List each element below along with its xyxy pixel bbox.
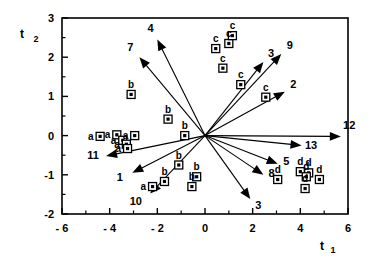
loading-vector-line [205, 136, 294, 145]
score-marker-label: d [303, 161, 309, 172]
x-tick-label: 4 [297, 222, 304, 234]
score-marker-label: b [128, 79, 134, 90]
score-marker-label: c [220, 53, 226, 64]
score-marker-label: d [275, 164, 281, 175]
y-tick-label: -1 [44, 169, 54, 181]
loading-vector-label: 2 [290, 78, 296, 90]
loading-vector-label: 12 [343, 119, 355, 131]
loading-vector-label: 10 [130, 195, 142, 207]
score-marker-center [195, 175, 198, 178]
loading-vector-label: 11 [87, 149, 99, 161]
loading-vector-arrowhead [266, 156, 278, 164]
score-marker-label: d [316, 164, 322, 175]
x-axis-tick-labels: - 6- 4- 20246 [56, 222, 351, 234]
y-axis-title-subscript: 2 [33, 34, 38, 44]
score-marker-center [276, 178, 279, 181]
loading-vector-arrowhead [273, 92, 285, 101]
score-marker-center [163, 180, 166, 183]
loading-vector-arrowhead [132, 164, 144, 173]
loading-vector-arrowhead [290, 140, 301, 149]
y-axis-tick-labels: -2-10123 [44, 12, 54, 220]
score-marker-center [99, 135, 102, 138]
loading-vector-line [205, 68, 258, 135]
score-marker-center [126, 147, 129, 150]
loading-vector-arrowhead [253, 62, 263, 73]
score-marker-center [221, 67, 224, 70]
score-marker-center [151, 185, 154, 188]
loading-vector-line [205, 136, 333, 137]
score-points [96, 32, 323, 193]
y-tick-label: 3 [48, 12, 54, 24]
score-marker-center [214, 47, 217, 50]
x-axis-ticks [62, 208, 348, 214]
score-marker-label: a [141, 181, 147, 192]
loading-vector-label: 7 [127, 41, 133, 53]
loading-vector-arrowhead [252, 165, 264, 175]
score-marker-label: b [189, 171, 195, 182]
score-marker-label: b [176, 150, 182, 161]
y-tick-label: -2 [44, 208, 54, 220]
score-marker-center [177, 163, 180, 166]
loading-vector-label: 9 [287, 39, 293, 51]
score-marker-center [318, 178, 321, 181]
x-tick-label: 2 [250, 222, 256, 234]
x-tick-label: 0 [202, 222, 208, 234]
score-marker-center [304, 187, 307, 190]
x-axis-title: t [320, 239, 324, 253]
loading-vector-label: 3 [268, 47, 274, 59]
loading-vector-arrowhead [139, 57, 149, 68]
score-marker-label: b [165, 104, 171, 115]
loading-vector-label: 5 [283, 155, 289, 167]
loading-vector-label: 1 [117, 171, 123, 183]
score-marker-center [264, 96, 267, 99]
x-tick-label: 6 [345, 222, 351, 234]
y-tick-label: 0 [48, 130, 54, 142]
y-tick-label: 2 [48, 51, 54, 63]
loading-vector-label: 3 [255, 199, 261, 211]
loading-vector-arrowhead [240, 188, 250, 200]
loading-vector-line [205, 136, 246, 193]
loading-vector-label: 13 [305, 139, 317, 151]
score-marker-label: d [302, 173, 308, 184]
score-marker-label: c [263, 82, 269, 93]
loading-vector-arrowhead [157, 40, 166, 52]
y-axis-ticks [62, 18, 68, 214]
score-marker-center [239, 83, 242, 86]
biplot-figure: - 6- 4- 20246 -2-10123 47111103921213583… [0, 0, 370, 265]
x-tick-label: - 2 [151, 222, 164, 234]
score-marker-label: c [230, 20, 236, 31]
y-axis-title: t [20, 27, 24, 41]
score-marker-label: a [123, 130, 129, 141]
score-marker-label: c [238, 69, 244, 80]
loading-vector-label: 4 [148, 22, 155, 34]
score-marker-center [130, 93, 133, 96]
score-marker-label: b [161, 166, 167, 177]
score-marker-center [190, 185, 193, 188]
loading-vector-arrowhead [330, 132, 341, 141]
x-tick-label: - 6 [56, 222, 69, 234]
x-tick-label: - 4 [103, 222, 117, 234]
score-marker-center [227, 42, 230, 45]
score-marker-center [133, 134, 136, 137]
score-marker-label: b [182, 120, 188, 131]
score-marker-center [166, 118, 169, 121]
y-tick-label: 1 [48, 90, 54, 102]
scatter-biplot-canvas: - 6- 4- 20246 -2-10123 47111103921213583… [0, 0, 370, 265]
score-marker-label: a [88, 131, 94, 142]
x-axis-title-subscript: 1 [330, 245, 335, 255]
score-marker-label: c [213, 33, 219, 44]
score-marker-center [183, 134, 186, 137]
score-marker-label: a [115, 143, 121, 154]
